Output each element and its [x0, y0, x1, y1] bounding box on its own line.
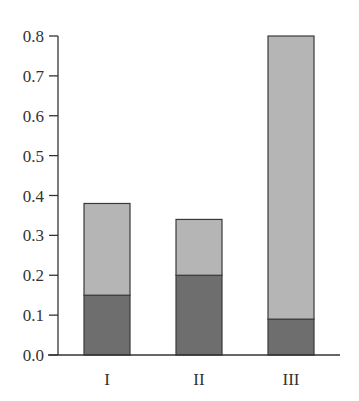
x-tick-label: I	[104, 370, 110, 389]
x-tick-label: III	[283, 370, 300, 389]
y-tick-label: 0.0	[23, 346, 44, 365]
x-tick-label: II	[193, 370, 205, 389]
bar-segment-bottom	[268, 319, 314, 355]
bar-segment-bottom	[176, 275, 222, 355]
bar-segment-top	[176, 219, 222, 275]
stacked-bar-chart: 0.00.10.20.30.40.50.60.70.8 IIIIII	[0, 0, 359, 401]
bar-segment-top	[84, 203, 130, 295]
y-tick-label: 0.1	[23, 306, 44, 325]
bars-group	[84, 36, 314, 355]
y-tick-label: 0.6	[23, 107, 44, 126]
bar-segment-top	[268, 36, 314, 319]
y-tick-label: 0.2	[23, 266, 44, 285]
y-tick-label: 0.4	[23, 187, 45, 206]
y-tick-label: 0.3	[23, 226, 44, 245]
y-tick-label: 0.7	[23, 67, 45, 86]
y-tick-label: 0.5	[23, 147, 44, 166]
x-axis: IIIIII	[48, 355, 340, 389]
y-axis: 0.00.10.20.30.40.50.60.70.8	[23, 27, 58, 365]
bar-segment-bottom	[84, 295, 130, 355]
y-tick-label: 0.8	[23, 27, 44, 46]
